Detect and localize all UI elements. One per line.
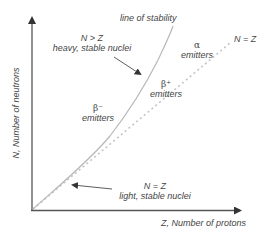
alpha-symbol: α bbox=[172, 40, 222, 50]
beta-minus-emitters-label: emitters bbox=[73, 113, 123, 123]
heavy-nuclei-title: N > Z bbox=[52, 33, 132, 43]
n-equals-z-line-label: N = Z bbox=[234, 34, 256, 44]
alpha-emitters-label: emitters bbox=[172, 50, 222, 60]
diagram-canvas bbox=[0, 0, 272, 239]
alpha-emitters-region: α emitters bbox=[172, 40, 222, 60]
light-nuclei-arrow bbox=[73, 185, 112, 189]
beta-plus-emitters-label: emitters bbox=[141, 89, 191, 99]
beta-plus-emitters-region: β⁺ emitters bbox=[141, 79, 191, 99]
light-nuclei-title: N = Z bbox=[115, 181, 195, 191]
heavy-nuclei-arrow bbox=[114, 57, 140, 74]
light-nuclei-annotation: N = Z light, stable nuclei bbox=[115, 181, 195, 201]
x-axis-label: Z, Number of protons bbox=[161, 218, 246, 228]
heavy-nuclei-subtitle: heavy, stable nuclei bbox=[52, 43, 132, 53]
heavy-nuclei-annotation: N > Z heavy, stable nuclei bbox=[52, 33, 132, 53]
beta-minus-emitters-region: β⁻ emitters bbox=[73, 103, 123, 123]
stability-line-label: line of stability bbox=[120, 13, 177, 23]
beta-plus-symbol: β⁺ bbox=[141, 79, 191, 89]
y-axis-label: N, Number of neutrons bbox=[11, 67, 21, 158]
light-nuclei-subtitle: light, stable nuclei bbox=[115, 191, 195, 201]
beta-minus-symbol: β⁻ bbox=[73, 103, 123, 113]
